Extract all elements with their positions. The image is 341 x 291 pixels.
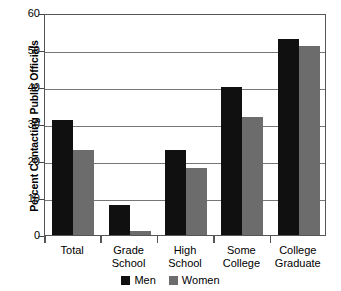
bar-chart: Percent Contacting Public Officials 0102… bbox=[0, 0, 341, 291]
chart-legend: MenWomen bbox=[0, 274, 341, 286]
y-axis-tick-label: 10 bbox=[16, 193, 40, 204]
x-axis-tick-mark bbox=[270, 236, 272, 243]
bar-men-some-college bbox=[221, 87, 242, 235]
x-axis-tick-label-line: High bbox=[174, 244, 197, 256]
y-axis-tick-mark bbox=[38, 51, 44, 53]
bar-women-high-school bbox=[186, 168, 207, 235]
y-axis-tick-mark bbox=[38, 125, 44, 127]
x-axis-tick-marks bbox=[44, 236, 326, 243]
x-axis-tick-label-line: Some bbox=[227, 244, 256, 256]
legend-swatch-men bbox=[121, 276, 130, 285]
bar-women-some-college bbox=[242, 117, 263, 235]
y-axis-tick-label: 50 bbox=[16, 45, 40, 56]
y-axis-tick-label: 30 bbox=[16, 119, 40, 130]
y-axis-tick-label: 0 bbox=[16, 230, 40, 241]
x-axis-tick-mark bbox=[100, 236, 102, 243]
x-axis-tick-label: Total bbox=[44, 244, 100, 257]
x-axis-tick-label: CollegeGraduate bbox=[270, 244, 326, 270]
bar-women-grade-school bbox=[130, 231, 151, 235]
y-axis-tick-label: 20 bbox=[16, 156, 40, 167]
legend-swatch-women bbox=[169, 276, 178, 285]
legend-item-men: Men bbox=[121, 274, 155, 286]
x-axis-tick-mark bbox=[157, 236, 159, 243]
y-axis-tick-mark bbox=[38, 162, 44, 164]
x-axis-tick-mark bbox=[44, 236, 46, 243]
x-axis-tick-label-line: School bbox=[100, 257, 156, 270]
x-axis-tick-label-line: College bbox=[213, 257, 269, 270]
x-axis-tick-label: GradeSchool bbox=[100, 244, 156, 270]
x-axis-tick-label-line: School bbox=[157, 257, 213, 270]
x-axis-tick-labels: TotalGradeSchoolHighSchoolSomeCollegeCol… bbox=[44, 244, 326, 274]
x-axis-tick-label: HighSchool bbox=[157, 244, 213, 270]
x-axis-tick-mark bbox=[213, 236, 215, 243]
y-axis-tick-mark bbox=[38, 199, 44, 201]
bar-men-total bbox=[52, 120, 73, 235]
legend-label: Men bbox=[134, 274, 155, 286]
x-axis-tick-label-line: Grade bbox=[113, 244, 144, 256]
x-axis-tick-label-line: Total bbox=[61, 244, 84, 256]
legend-label: Women bbox=[182, 274, 220, 286]
bars-layer bbox=[45, 15, 325, 235]
plot-area bbox=[44, 14, 326, 236]
y-axis-tick-mark bbox=[38, 14, 44, 16]
bar-women-college-graduate bbox=[299, 46, 320, 235]
x-axis-tick-label-line: College bbox=[279, 244, 316, 256]
x-axis-tick-label-line: Graduate bbox=[270, 257, 326, 270]
y-axis-tick-label: 60 bbox=[16, 8, 40, 19]
x-axis-tick-label: SomeCollege bbox=[213, 244, 269, 270]
bar-men-high-school bbox=[165, 150, 186, 235]
y-axis-tick-mark bbox=[38, 88, 44, 90]
bar-men-grade-school bbox=[109, 205, 130, 235]
y-axis-tick-label: 40 bbox=[16, 82, 40, 93]
bar-men-college-graduate bbox=[278, 39, 299, 235]
legend-item-women: Women bbox=[169, 274, 220, 286]
bar-women-total bbox=[73, 150, 94, 235]
